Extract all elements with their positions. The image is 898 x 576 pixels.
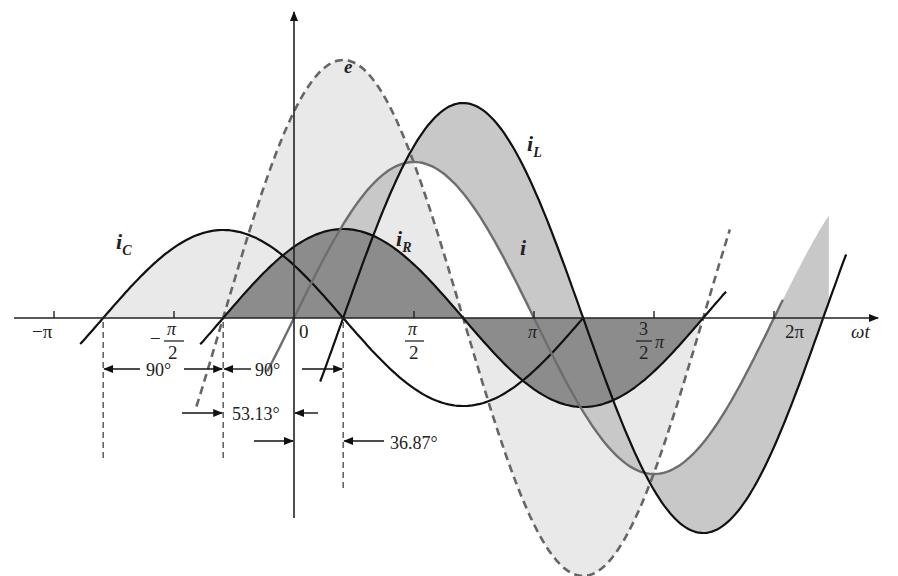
tick-label-neg-pi: −π <box>32 321 53 342</box>
label-e: e <box>344 56 353 77</box>
svg-text:π: π <box>408 319 418 339</box>
annotation-90-left: 90° <box>146 360 171 380</box>
svg-text:2: 2 <box>409 342 419 363</box>
tick-label-two-pi: 2π <box>785 321 805 342</box>
svg-text:2: 2 <box>639 342 649 363</box>
label-iL: iL <box>527 131 542 160</box>
label-i: i <box>520 235 527 260</box>
annotation-53-13: 53.13° <box>232 404 280 424</box>
origin-label: 0 <box>299 321 309 342</box>
tick-label-pi: π <box>528 322 538 342</box>
x-axis-label: ωt <box>851 321 870 342</box>
waveform-diagram: e iC iR iL i ωt 0 −π − π 2 π 2 π 3 2 π 2… <box>0 0 898 576</box>
tick-label-pi-half: π 2 <box>405 319 424 363</box>
annotation-36-87: 36.87° <box>390 433 438 453</box>
label-iC: iC <box>116 229 132 258</box>
svg-text:π: π <box>167 319 177 339</box>
svg-text:−: − <box>150 328 161 349</box>
tick-label-neg-pi-half: − π 2 <box>150 319 184 363</box>
svg-text:3: 3 <box>639 319 648 339</box>
svg-text:π: π <box>655 332 665 352</box>
annotation-90-right: 90° <box>255 360 280 380</box>
